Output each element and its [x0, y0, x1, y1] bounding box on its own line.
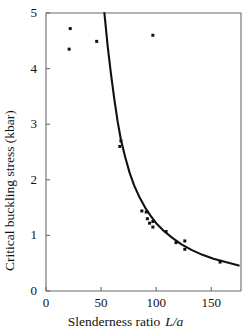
- data-point: [95, 40, 98, 43]
- plot-frame: [46, 13, 241, 291]
- x-tick-label-50: 50: [81, 296, 121, 309]
- data-point: [69, 27, 72, 30]
- data-point: [151, 220, 154, 223]
- y-tick-label-5: 5: [0, 6, 37, 19]
- data-point: [119, 139, 122, 142]
- y-tick-label-4: 4: [0, 62, 37, 75]
- x-tick-label-0: 0: [26, 296, 66, 309]
- x-tick-label-100: 100: [136, 296, 176, 309]
- theory-curve: [104, 13, 238, 265]
- x-axis-title: Slenderness ratioL/a: [0, 314, 251, 330]
- y-axis-title: Critical buckling stress (kbar): [2, 110, 18, 271]
- y-axis-ticks: [46, 13, 50, 291]
- data-point: [219, 261, 222, 264]
- data-point: [68, 48, 71, 51]
- x-axis-title-text: Slenderness ratio: [68, 314, 161, 329]
- x-axis-ticks: [46, 287, 211, 291]
- data-point: [183, 239, 186, 242]
- data-point: [165, 230, 168, 233]
- x-axis-title-symbol: L/a: [160, 314, 183, 329]
- data-point: [146, 217, 149, 220]
- data-point: [183, 248, 186, 251]
- data-point: [151, 34, 154, 37]
- data-point-group: [68, 27, 222, 264]
- data-point: [118, 145, 121, 148]
- data-point: [175, 241, 178, 244]
- data-point: [148, 222, 151, 225]
- data-point: [140, 209, 143, 212]
- chart-canvas: [0, 0, 251, 335]
- plot-frame-lines: [46, 13, 241, 291]
- data-point: [145, 211, 148, 214]
- x-tick-label-150: 150: [191, 296, 231, 309]
- data-point: [151, 226, 154, 229]
- chart-figure: 5 4 3 2 1 0 0 50 100 150 Critical buckli…: [0, 0, 251, 335]
